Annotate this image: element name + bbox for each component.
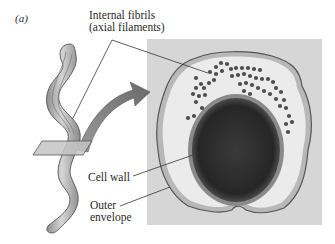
- panel-label: (a): [15, 12, 28, 24]
- diagram-graphics: [0, 0, 335, 244]
- micrograph-panel: [147, 39, 322, 225]
- internal-fibrils-label-line2: (axial filaments): [89, 21, 165, 33]
- spirochete-figure: (a) Internal fibrils (axial filaments) C…: [0, 0, 335, 244]
- cross-section-plane: [33, 141, 92, 155]
- outer-envelope-label-line2: envelope: [90, 211, 132, 223]
- internal-fibrils-label-line1: Internal fibrils: [89, 9, 165, 21]
- outer-envelope-label: Outer envelope: [90, 199, 132, 223]
- cell-wall-label: Cell wall: [88, 171, 130, 183]
- protoplasmic-cylinder: [192, 98, 280, 202]
- internal-fibrils-label: Internal fibrils (axial filaments): [89, 9, 165, 33]
- outer-envelope-label-line1: Outer: [90, 199, 132, 211]
